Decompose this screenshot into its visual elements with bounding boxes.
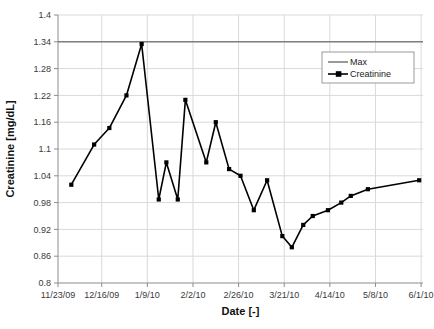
data-point-marker [265,178,269,182]
x-axis-tick-label: 12/16/09 [84,290,119,300]
y-axis-tick-label: 0.86 [33,251,51,261]
legend-marker-creatinine [336,71,342,77]
data-point-marker [238,174,242,178]
x-axis-tick-label: 3/21/10 [269,290,299,300]
data-point-marker [349,194,353,198]
x-axis-tick-label: 1/9/10 [135,290,160,300]
data-point-marker [227,167,231,171]
data-point-marker [280,234,284,238]
data-point-marker [204,160,208,164]
data-point-marker [176,197,180,201]
x-axis-tick-label: 2/2/10 [180,290,205,300]
y-axis-tick-label: 1.04 [33,171,51,181]
y-axis-title: Creatinine [mg/dL] [4,100,16,198]
y-axis-tick-label: 1.1 [38,144,51,154]
data-point-marker [124,93,128,97]
legend-label-creatinine: Creatinine [350,69,391,79]
y-axis-tick-label: 1.16 [33,117,51,127]
data-point-marker [92,142,96,146]
data-point-marker [326,208,330,212]
data-point-marker [164,160,168,164]
chart-container: 0.80.860.920.981.041.11.161.221.281.341.… [0,0,434,329]
data-point-marker [157,197,161,201]
y-axis-tick-label: 1.22 [33,91,51,101]
data-point-marker [183,98,187,102]
y-axis-tick-label: 1.34 [33,37,51,47]
x-axis-tick-label: 4/14/10 [315,290,345,300]
y-axis-tick-label: 1.28 [33,64,51,74]
data-point-marker [366,187,370,191]
x-axis-tick-label: 6/1/10 [409,290,434,300]
data-point-marker [214,120,218,124]
data-point-marker [290,245,294,249]
y-axis-tick-label: 0.98 [33,198,51,208]
data-point-marker [69,183,73,187]
y-axis-tick-label: 0.8 [38,278,51,288]
x-axis-title: Date [-] [222,305,260,317]
x-axis-tick-label: 2/26/10 [224,290,254,300]
data-point-marker [311,214,315,218]
y-axis-tick-label: 0.92 [33,225,51,235]
data-point-marker [252,208,256,212]
data-point-marker [140,42,144,46]
data-point-marker [107,126,111,130]
x-axis-tick-label: 11/23/09 [41,290,75,300]
legend-label-max: Max [350,57,368,67]
creatinine-line-chart: 0.80.860.920.981.041.11.161.221.281.341.… [0,0,434,329]
data-point-marker [417,178,421,182]
data-point-marker [301,223,305,227]
y-axis-tick-label: 1.4 [38,10,51,20]
data-point-marker [339,201,343,205]
x-axis-tick-label: 5/8/10 [363,290,388,300]
